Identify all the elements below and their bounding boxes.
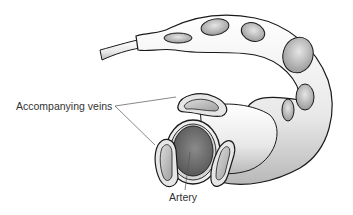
tail-vessel — [100, 40, 140, 60]
accompanying-veins-label: Accompanying veins — [16, 100, 112, 112]
vessel-diagram: Accompanying veins Artery — [0, 0, 353, 215]
veins-leader-lower — [115, 106, 155, 145]
artery-label: Artery — [169, 191, 197, 203]
artery-lumen — [173, 126, 213, 176]
veins-leader-upper — [115, 97, 176, 106]
